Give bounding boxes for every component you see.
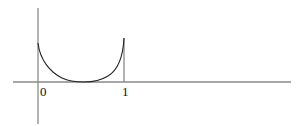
tick-label-1: 1 <box>122 84 129 99</box>
curve <box>38 38 124 82</box>
tick-label-0: 0 <box>40 84 47 99</box>
chart: 0 1 <box>0 0 304 126</box>
